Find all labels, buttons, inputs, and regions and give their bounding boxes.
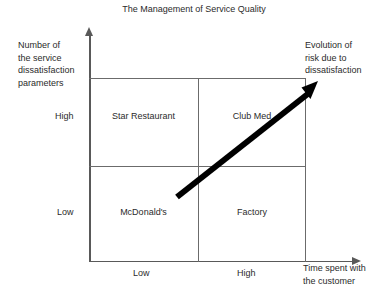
x-axis-title-line-1: Time spent with — [303, 262, 366, 275]
x-axis-tick-low: Low — [133, 268, 150, 279]
x-axis-title: Time spent with the customer — [303, 262, 366, 287]
y-axis-line — [89, 34, 91, 262]
chart-title: The Management of Service Quality — [0, 3, 388, 15]
risk-evolution-line-3: dissatisfaction — [305, 64, 362, 77]
y-axis-title: Number of the service dissatisfaction pa… — [18, 39, 75, 89]
y-axis-tick-high: High — [55, 111, 74, 122]
grid-line-middle-vertical — [198, 78, 199, 262]
risk-evolution-line-2: risk due to — [305, 52, 362, 65]
y-axis-title-line-2: the service — [18, 52, 75, 65]
matrix-cell-factory: Factory — [199, 207, 305, 218]
matrix-cell-mcdonalds: McDonald's — [90, 207, 197, 218]
y-axis-arrowhead-icon — [85, 27, 93, 36]
grid-line-right — [305, 78, 306, 262]
y-axis-title-line-4: parameters — [18, 77, 75, 90]
y-axis-title-line-1: Number of — [18, 39, 75, 52]
matrix-cell-star-restaurant: Star Restaurant — [90, 111, 197, 122]
service-quality-matrix-figure: The Management of Service Quality Star R… — [0, 0, 388, 299]
risk-evolution-line-1: Evolution of — [305, 39, 362, 52]
x-axis-tick-high: High — [237, 268, 256, 279]
risk-trend-arrow-icon — [168, 74, 328, 206]
risk-evolution-annotation: Evolution of risk due to dissatisfaction — [305, 39, 362, 77]
matrix-cell-club-med: Club Med — [199, 111, 305, 122]
y-axis-tick-low: Low — [57, 207, 74, 218]
x-axis-title-line-2: the customer — [303, 275, 366, 288]
y-axis-title-line-3: dissatisfaction — [18, 64, 75, 77]
